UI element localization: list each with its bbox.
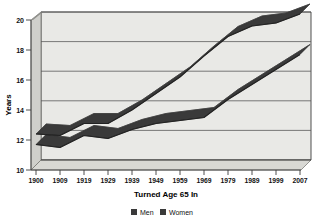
plot-back-wall	[41, 12, 311, 160]
x-tick-label-1979: 1979	[220, 177, 235, 184]
legend: Men Women	[131, 209, 193, 216]
x-axis-title: Turned Age 65 In	[134, 190, 198, 199]
x-axis	[31, 170, 301, 175]
chart-canvas: 20 18 16 14 12 10 Years 1900 1909 1919 1…	[0, 0, 320, 224]
y-tick-label-12: 12	[16, 137, 24, 144]
y-axis	[26, 20, 31, 170]
x-tick-label-1969: 1969	[196, 177, 211, 184]
legend-swatch-women	[160, 209, 166, 215]
legend-label-women: Women	[169, 209, 193, 216]
x-tick-label-1900: 1900	[28, 177, 43, 184]
y-tick-label-10: 10	[16, 167, 24, 174]
legend-swatch-men	[131, 209, 137, 215]
y-tick-label-16: 16	[16, 77, 24, 84]
x-tick-label-1919: 1919	[76, 177, 91, 184]
legend-label-men: Men	[140, 209, 154, 216]
x-tick-label-1909: 1909	[52, 177, 67, 184]
y-tick-label-18: 18	[16, 47, 24, 54]
plot-left-wall	[31, 12, 41, 170]
y-tick-label-14: 14	[16, 107, 24, 114]
y-axis-title: Years	[4, 94, 13, 116]
x-tick-label-1929: 1929	[100, 177, 115, 184]
x-tick-label-1949: 1949	[148, 177, 163, 184]
chart-title-fragment	[42, 0, 252, 1]
plot-floor	[31, 160, 311, 170]
life-expectancy-chart: 20 18 16 14 12 10 Years 1900 1909 1919 1…	[0, 0, 320, 224]
x-tick-label-1959: 1959	[172, 177, 187, 184]
x-tick-label-1939: 1939	[124, 177, 139, 184]
x-tick-label-1999: 1999	[268, 177, 283, 184]
x-tick-label-1989: 1989	[244, 177, 259, 184]
y-tick-label-20: 20	[16, 17, 24, 24]
x-tick-label-2007: 2007	[292, 177, 307, 184]
